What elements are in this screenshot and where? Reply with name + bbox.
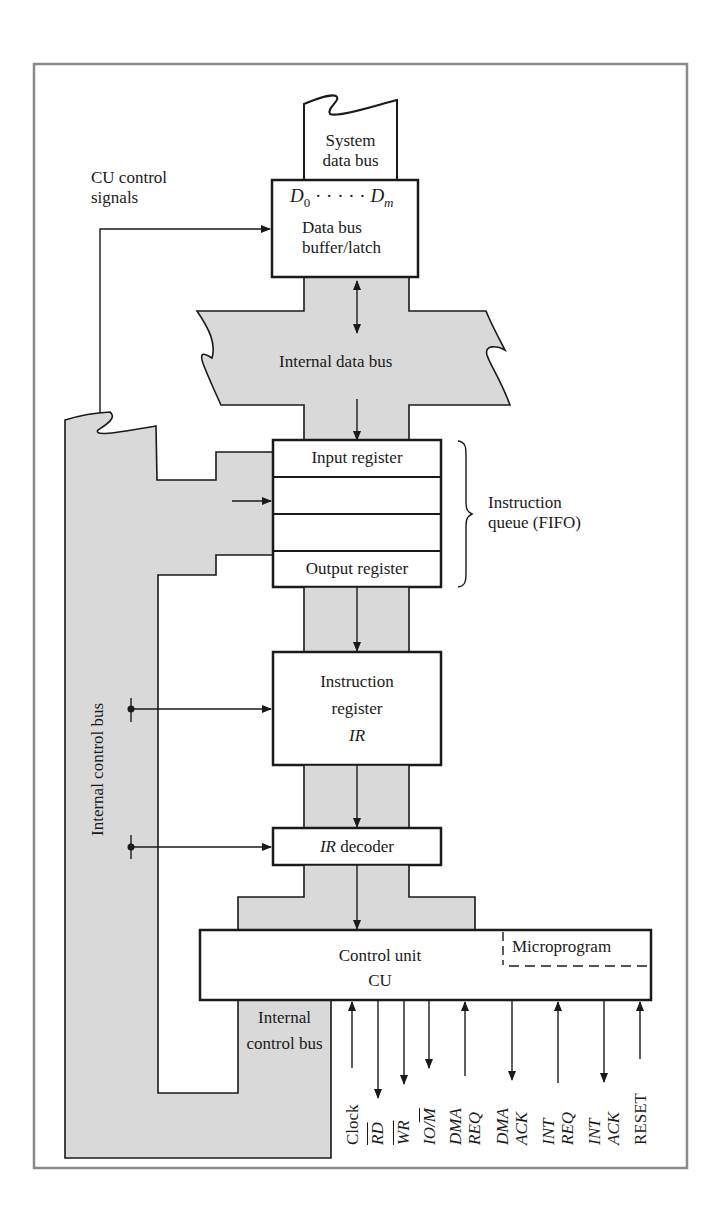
output-register-label: Output register [273,559,441,579]
signal-label-int-req: INT REQ [539,1112,577,1145]
signal-label-dma-req: DMA REQ [446,1108,484,1145]
internal-control-bus-bottom-label: Internal control bus [238,1005,331,1057]
signal-label-wr: WR [394,1120,413,1145]
cu-signal-lines [352,1000,640,1098]
internal-data-bus-label: Internal data bus [279,352,392,372]
internal-control-bus-vertical-label: Internal control bus [88,703,107,836]
signal-label-iom: IO/MIO/M [420,1108,439,1145]
data-bus-buffer-label: Data bus buffer/latch [302,218,381,258]
cu-control-signals-label: CU control signals [91,168,167,208]
signal-label-reset: RESET [631,1093,650,1145]
signal-label-rd: RD [368,1122,387,1145]
signal-label-clock: Clock [343,1104,362,1145]
queue-brace [458,441,472,587]
ir-decoder-label: IR decoder [273,837,441,857]
control-unit-label: Control unit CU [280,943,480,993]
microprogram-label: Microprogram [512,937,611,957]
input-register-label: Input register [273,448,441,468]
signal-label-dma-ack: DMA ACK [493,1108,531,1145]
system-data-bus-label: System data bus [304,131,397,171]
signal-label-int-ack: INT ACK [585,1112,623,1145]
instruction-queue-label: Instruction queue (FIFO) [488,493,581,533]
instruction-register-label: Instruction register IR [273,668,441,749]
data-bus-range-label: D0 · · · · · Dm [290,186,394,213]
